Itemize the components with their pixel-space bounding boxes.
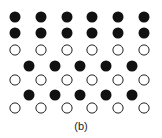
open-atom-icon xyxy=(139,45,149,55)
open-atom-row xyxy=(10,45,149,55)
filled-atom-icon xyxy=(62,28,73,39)
filled-atom-icon xyxy=(127,61,138,72)
open-atom-icon xyxy=(62,75,72,85)
open-atom-icon xyxy=(87,75,97,85)
filled-atom-row xyxy=(24,61,138,72)
open-atom-icon xyxy=(10,75,20,85)
filled-atom-row xyxy=(10,28,150,39)
filled-atom-icon xyxy=(75,61,86,72)
open-atom-row xyxy=(10,75,149,85)
filled-atom-icon xyxy=(24,61,35,72)
filled-atom-icon xyxy=(139,28,150,39)
filled-atom-icon xyxy=(75,90,86,101)
open-atom-icon xyxy=(113,103,123,113)
filled-atom-icon xyxy=(36,12,47,23)
filled-atom-icon xyxy=(24,90,35,101)
filled-atom-icon xyxy=(113,28,124,39)
filled-atom-icon xyxy=(127,90,138,101)
open-atom-icon xyxy=(139,103,149,113)
filled-atom-icon xyxy=(10,28,21,39)
open-atom-icon xyxy=(87,103,97,113)
atom-lattice-diagram xyxy=(0,0,162,138)
filled-atom-icon xyxy=(113,12,124,23)
filled-atom-icon xyxy=(87,12,98,23)
filled-atom-row xyxy=(10,12,150,23)
open-atom-icon xyxy=(87,45,97,55)
open-atom-icon xyxy=(10,103,20,113)
filled-atom-icon xyxy=(10,12,21,23)
open-atom-icon xyxy=(36,103,46,113)
figure-caption: (b) xyxy=(0,120,162,132)
filled-atom-icon xyxy=(101,90,112,101)
open-atom-row xyxy=(10,103,149,113)
open-atom-icon xyxy=(36,75,46,85)
open-atom-icon xyxy=(36,45,46,55)
open-atom-icon xyxy=(10,45,20,55)
filled-atom-icon xyxy=(139,12,150,23)
open-atom-icon xyxy=(113,45,123,55)
filled-atom-row xyxy=(24,90,138,101)
filled-atom-icon xyxy=(36,28,47,39)
filled-atom-icon xyxy=(101,61,112,72)
open-atom-icon xyxy=(139,75,149,85)
filled-atom-icon xyxy=(87,28,98,39)
open-atom-icon xyxy=(62,45,72,55)
filled-atom-icon xyxy=(50,61,61,72)
open-atom-icon xyxy=(62,103,72,113)
filled-atom-icon xyxy=(50,90,61,101)
filled-atom-icon xyxy=(62,12,73,23)
open-atom-icon xyxy=(113,75,123,85)
